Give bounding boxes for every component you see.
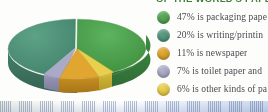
legend-item-toilet[interactable]: 7% is toilet paper and xyxy=(157,62,268,80)
legend-swatch-other xyxy=(157,83,170,96)
legend-item-packaging[interactable]: 47% is packaging pape xyxy=(157,8,268,26)
legend-item-other[interactable]: 6% is other kinds of pa xyxy=(157,80,268,98)
pie-chart-svg xyxy=(2,2,152,98)
legend-item-writing[interactable]: 20% is writing/printin xyxy=(157,26,268,44)
legend-label-toilet: 7% is toilet paper and xyxy=(177,65,262,77)
decorative-strip-tint xyxy=(0,101,268,112)
legend-swatch-packaging xyxy=(157,11,170,24)
legend-swatch-toilet xyxy=(157,65,170,78)
legend-swatch-newspaper xyxy=(157,47,170,60)
legend-label-newspaper: 11% is newspaper xyxy=(177,47,247,59)
legend-label-other: 6% is other kinds of pa xyxy=(177,83,267,95)
pie-chart xyxy=(2,2,152,98)
legend-label-packaging: 47% is packaging pape xyxy=(177,11,267,23)
legend-label-writing: 20% is writing/printin xyxy=(177,29,263,41)
chart-legend: 47% is packaging pape 20% is writing/pri… xyxy=(157,8,268,100)
page-title: OF THE WORLD'S PAPER xyxy=(156,0,268,4)
legend-swatch-writing xyxy=(157,29,170,42)
legend-item-newspaper[interactable]: 11% is newspaper xyxy=(157,44,268,62)
infographic-panel: OF THE WORLD'S PAPER xyxy=(0,0,268,112)
